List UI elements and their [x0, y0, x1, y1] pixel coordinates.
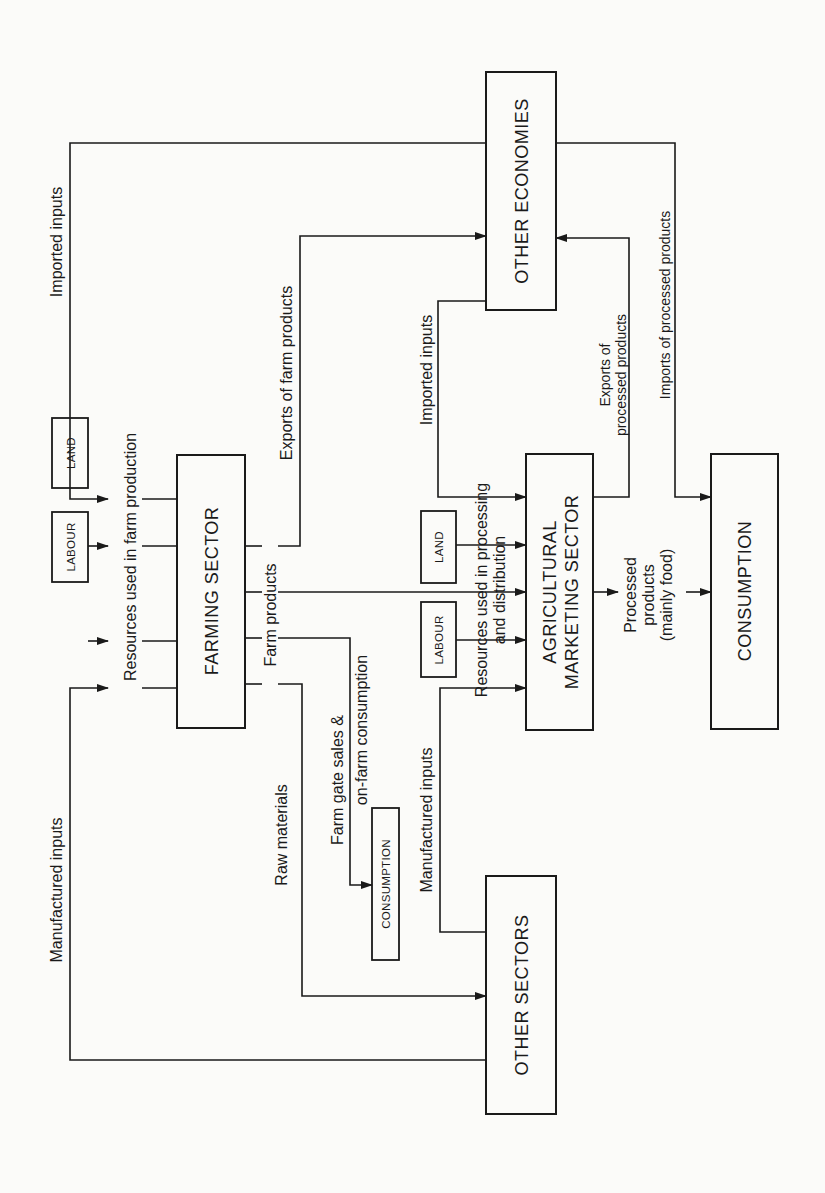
consumption-label: CONSUMPTION [735, 521, 755, 662]
resources-farm-label: Resources used in farm production [122, 433, 139, 681]
land-marketing-label: LAND [433, 531, 445, 563]
imported-inputs-farm-label: Imported inputs [48, 187, 65, 297]
raw-materials-label: Raw materials [273, 784, 290, 885]
labour-marketing-label: LABOUR [433, 615, 445, 664]
exports-processed-label-line1: Exports of [597, 343, 613, 406]
manufactured-inputs-farm-label: Manufactured inputs [48, 818, 65, 963]
farm-gate-label-line2: on-farm consumption [353, 655, 370, 805]
other-economies-label: OTHER ECONOMIES [512, 98, 532, 284]
imported-inputs-marketing-arrow [438, 301, 526, 497]
manufactured-inputs-marketing-label: Manufactured inputs [418, 748, 435, 893]
exports-farm-products-label: Exports of farm products [278, 286, 295, 460]
exports-processed-label-line2: processed products [613, 314, 629, 436]
ams-label-line2: MARKETING SECTOR [562, 495, 582, 690]
imports-processed-label: Imports of processed products [657, 211, 673, 399]
imports-processed-products-arrow [556, 143, 711, 497]
resources-marketing-label-line2: and distribution [491, 536, 508, 645]
labour-farm-label: LABOUR [65, 522, 77, 571]
exports-farm-products-arrow [278, 236, 486, 546]
processed-label-line3: (mainly food) [658, 549, 675, 641]
processed-label-line1: Processed [622, 557, 639, 633]
processed-label-line2: products [640, 564, 657, 625]
resources-marketing-label-line1: Resources used in processing [473, 483, 490, 697]
farm-consumption-label: CONSUMPTION [380, 839, 392, 929]
other-sectors-label: OTHER SECTORS [512, 914, 532, 1075]
ams-label-line1: AGRICULTURAL [540, 520, 560, 664]
farming-sector-label: FARMING SECTOR [202, 507, 222, 676]
land-farm-label: LAND [65, 437, 77, 469]
imported-inputs-marketing-label: Imported inputs [418, 315, 435, 425]
farm-products-label: Farm products [262, 563, 279, 666]
farm-gate-label-line1: Farm gate sales & [329, 715, 346, 845]
flow-diagram: FARMING SECTOR AGRICULTURAL MARKETING SE… [0, 0, 825, 1193]
